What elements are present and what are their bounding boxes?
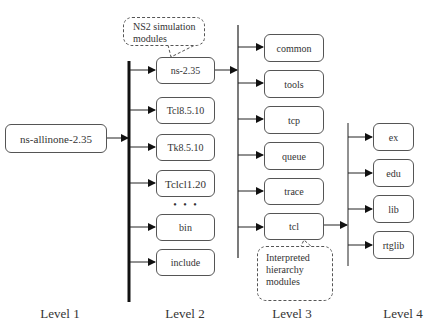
node-tcp: tcp [264, 106, 324, 134]
level-label-2: Level 2 [165, 306, 204, 322]
node-common: common [264, 34, 324, 62]
level-label-4: Level 4 [383, 306, 422, 322]
node-rtglib: rtglib [373, 231, 414, 259]
ellipsis: • • • [173, 199, 199, 210]
node-ns-allinone: ns-allinone-2.35 [5, 124, 107, 153]
node-trace: trace [264, 178, 324, 205]
node-ex: ex [373, 123, 414, 151]
node-tk8-5-10: Tk8.5.10 [156, 134, 215, 161]
node-tclcl1-20: Tclcl1.20 [156, 170, 215, 197]
level-label-3: Level 3 [272, 306, 311, 322]
node-queue: queue [264, 142, 324, 170]
level-label-1: Level 1 [40, 306, 79, 322]
node-tcl8-5-10: Tcl8.5.10 [156, 97, 215, 124]
node-lib: lib [373, 195, 414, 223]
callout-interpreted-hierarchy-modules: Interpreted hierarchy modules [257, 246, 333, 301]
node-bin: bin [156, 214, 215, 241]
node-include: include [156, 249, 215, 276]
callout-ns2-simulation-modules: NS2 simulation modules [123, 17, 205, 46]
node-ns-2-35: ns-2.35 [156, 57, 215, 84]
node-edu: edu [373, 159, 414, 187]
node-tcl: tcl [264, 213, 324, 240]
node-tools: tools [264, 70, 324, 98]
